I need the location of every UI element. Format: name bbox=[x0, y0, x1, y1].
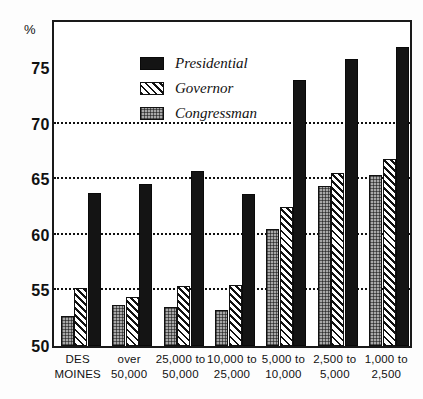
bar-presidential-0 bbox=[88, 193, 101, 346]
y-tick-55: 55 bbox=[6, 282, 50, 300]
plot-area: Presidential Governor Congressman bbox=[52, 20, 412, 348]
bar-governor-3 bbox=[229, 285, 242, 346]
bar-presidential-3 bbox=[242, 194, 255, 346]
bar-presidential-2 bbox=[191, 171, 204, 346]
chart-legend: Presidential Governor Congressman bbox=[140, 52, 257, 127]
bar-presidential-1 bbox=[139, 184, 152, 346]
bar-congressman-2 bbox=[164, 307, 177, 346]
bar-chart: % 505560657075 Presidential Governor Con… bbox=[0, 0, 423, 399]
diagonal-hatch-swatch bbox=[140, 82, 164, 95]
bar-presidential-5 bbox=[345, 59, 358, 346]
bar-presidential-6 bbox=[396, 47, 409, 346]
solid-black-swatch bbox=[140, 57, 164, 70]
legend-item-governor: Governor bbox=[140, 77, 257, 99]
legend-label-governor: Governor bbox=[175, 80, 233, 97]
y-tick-60: 60 bbox=[6, 227, 50, 245]
y-axis-tick-labels: 505560657075 bbox=[0, 0, 50, 399]
x-tick-line1-6: 1,000 to bbox=[355, 352, 418, 367]
bar-congressman-1 bbox=[112, 305, 125, 346]
bar-congressman-0 bbox=[61, 316, 74, 346]
y-tick-75: 75 bbox=[6, 60, 50, 78]
bar-congressman-3 bbox=[215, 310, 228, 346]
bar-congressman-6 bbox=[369, 175, 382, 346]
legend-label-congressman: Congressman bbox=[175, 105, 257, 122]
bar-governor-5 bbox=[331, 173, 344, 346]
gray-stipple-swatch bbox=[140, 107, 164, 120]
x-axis-tick-labels: DESMOINESover50,00025,000 to50,00010,000… bbox=[52, 352, 412, 398]
legend-item-congressman: Congressman bbox=[140, 102, 257, 124]
bar-governor-0 bbox=[74, 288, 87, 346]
y-tick-70: 70 bbox=[6, 116, 50, 134]
bar-governor-4 bbox=[280, 207, 293, 346]
y-tick-50: 50 bbox=[6, 338, 50, 356]
bar-governor-6 bbox=[383, 159, 396, 346]
legend-label-presidential: Presidential bbox=[175, 55, 248, 72]
x-tick-line2-6: 2,500 bbox=[355, 367, 418, 382]
bar-congressman-4 bbox=[266, 229, 279, 346]
x-tick-label-6: 1,000 to2,500 bbox=[355, 352, 418, 382]
bar-congressman-5 bbox=[318, 186, 331, 346]
bar-governor-1 bbox=[126, 297, 139, 346]
legend-item-presidential: Presidential bbox=[140, 52, 257, 74]
bar-presidential-4 bbox=[293, 80, 306, 346]
bar-governor-2 bbox=[177, 286, 190, 346]
y-tick-65: 65 bbox=[6, 171, 50, 189]
